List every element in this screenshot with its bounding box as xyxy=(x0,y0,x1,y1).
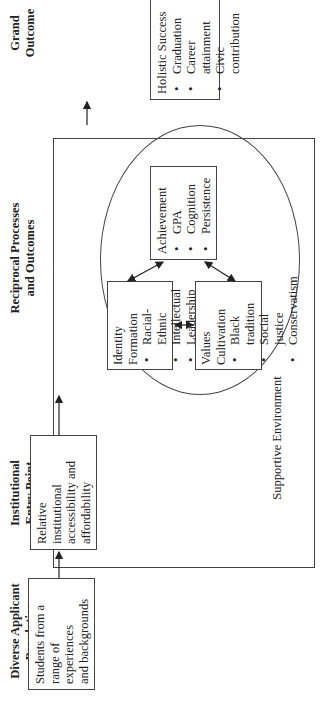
diagram-canvas: Diverse Applicant Population Institution… xyxy=(0,0,332,718)
arrow-identity-achievement xyxy=(128,262,163,281)
connector-arrows xyxy=(0,0,332,718)
arrow-values-achievement xyxy=(205,262,235,281)
